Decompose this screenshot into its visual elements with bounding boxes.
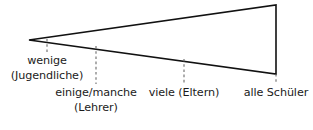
axis-label-einige-line1: einige/manche xyxy=(55,86,137,99)
wedge-scale-diagram: wenige (Jugendliche) einige/manche (Lehr… xyxy=(0,0,313,130)
axis-label-alle-line1: alle Schüler xyxy=(244,86,308,99)
axis-label-wenige: wenige (Jugendliche) xyxy=(11,54,83,83)
axis-label-wenige-line2: (Jugendliche) xyxy=(11,69,83,84)
axis-label-alle: alle Schüler xyxy=(244,86,308,101)
axis-label-viele-line1: viele (Eltern) xyxy=(149,86,219,99)
axis-label-einige-line2: (Lehrer) xyxy=(55,101,137,116)
axis-label-wenige-line1: wenige xyxy=(27,54,67,67)
axis-label-einige: einige/manche (Lehrer) xyxy=(55,86,137,115)
axis-label-viele: viele (Eltern) xyxy=(149,86,219,101)
